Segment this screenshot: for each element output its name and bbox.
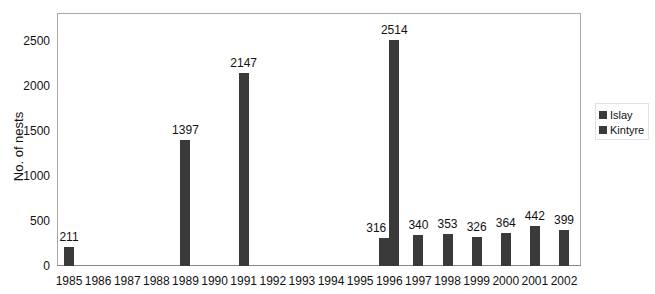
swatch-kintyre (599, 126, 607, 134)
bar-islay-1999 (472, 237, 482, 266)
y-tick-label: 500 (0, 215, 50, 227)
legend-item-kintyre: Kintyre (599, 124, 644, 136)
bar-islay-1996 (379, 238, 389, 266)
data-label: 1397 (165, 124, 205, 136)
x-tick-label: 1995 (345, 275, 375, 287)
data-label: 399 (544, 214, 584, 226)
x-tick-label: 1998 (433, 275, 463, 287)
bar-chart: No. of nests 05001000150020002500 198519… (0, 0, 655, 294)
bar-kintyre-1989 (180, 140, 190, 266)
y-tick-label: 2500 (0, 35, 50, 47)
bar-kintyre-1991 (239, 73, 249, 266)
legend: Islay Kintyre (595, 103, 649, 140)
x-tick-label: 1994 (316, 275, 346, 287)
x-tick-label: 1989 (170, 275, 200, 287)
bar-islay-1997 (413, 235, 423, 266)
legend-label: Islay (610, 109, 633, 121)
bar-islay-2001 (530, 226, 540, 266)
x-tick-label: 1988 (141, 275, 171, 287)
data-label: 211 (49, 231, 89, 243)
x-tick-label: 1997 (403, 275, 433, 287)
x-tick-label: 1987 (112, 275, 142, 287)
y-tick-label: 1000 (0, 170, 50, 182)
data-label: 2147 (224, 57, 264, 69)
x-tick-label: 1996 (374, 275, 404, 287)
bar-islay-1998 (443, 234, 453, 266)
y-tick-label: 1500 (0, 125, 50, 137)
y-tick-label: 0 (0, 260, 50, 272)
x-tick-label: 1991 (229, 275, 259, 287)
x-tick-label: 1999 (462, 275, 492, 287)
legend-label: Kintyre (610, 124, 644, 136)
legend-item-islay: Islay (599, 109, 633, 121)
x-tick-label: 1986 (83, 275, 113, 287)
x-tick-label: 1992 (258, 275, 288, 287)
bar-islay-2000 (501, 233, 511, 266)
y-tick-label: 2000 (0, 80, 50, 92)
bar-kintyre-1985 (64, 247, 74, 266)
x-tick-label: 2002 (549, 275, 579, 287)
x-tick-label: 1985 (54, 275, 84, 287)
x-tick-label: 1993 (287, 275, 317, 287)
x-tick-label: 2000 (491, 275, 521, 287)
x-tick-label: 2001 (520, 275, 550, 287)
bar-kintyre-1996 (389, 40, 399, 266)
x-tick-label: 1990 (200, 275, 230, 287)
data-label: 2514 (374, 24, 414, 36)
swatch-islay (599, 111, 607, 119)
bar-islay-2002 (559, 230, 569, 266)
